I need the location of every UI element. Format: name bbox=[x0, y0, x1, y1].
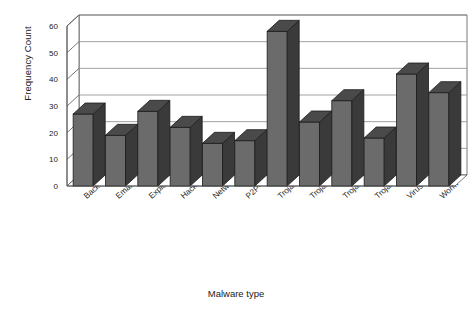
bar-side-face bbox=[190, 116, 202, 186]
plot-area bbox=[0, 0, 472, 322]
bar-front-face bbox=[235, 141, 255, 186]
bar-front-face bbox=[396, 74, 416, 186]
bar-group bbox=[364, 127, 396, 186]
bar-side-face bbox=[320, 111, 332, 186]
bar-group bbox=[396, 63, 428, 186]
bar-group bbox=[170, 116, 202, 186]
bar-group bbox=[235, 130, 267, 186]
bar-side-face bbox=[93, 103, 105, 186]
bar-side-face bbox=[449, 82, 461, 186]
bar-group bbox=[332, 90, 364, 186]
bar-group bbox=[267, 20, 299, 186]
bar-side-face bbox=[158, 100, 170, 186]
bar-front-face bbox=[267, 31, 287, 186]
bar-front-face bbox=[170, 127, 190, 186]
bar-front-face bbox=[73, 114, 93, 186]
bar-group bbox=[299, 111, 331, 186]
bar-group bbox=[138, 100, 170, 186]
bar-group bbox=[73, 103, 105, 186]
bar-side-face bbox=[352, 90, 364, 186]
bar-side-face bbox=[417, 63, 429, 186]
bar-front-face bbox=[138, 111, 158, 186]
bar-group bbox=[105, 124, 137, 186]
bar-group bbox=[429, 82, 461, 186]
bar-front-face bbox=[202, 143, 222, 186]
bar-chart: Frequency Count Malware type 01020304050… bbox=[0, 0, 472, 322]
bar-front-face bbox=[332, 101, 352, 186]
bar-front-face bbox=[429, 93, 449, 186]
bar-group bbox=[202, 132, 234, 186]
bar-side-face bbox=[287, 20, 299, 186]
bar-front-face bbox=[299, 122, 319, 186]
bar-front-face bbox=[364, 138, 384, 186]
bar-front-face bbox=[105, 135, 125, 186]
